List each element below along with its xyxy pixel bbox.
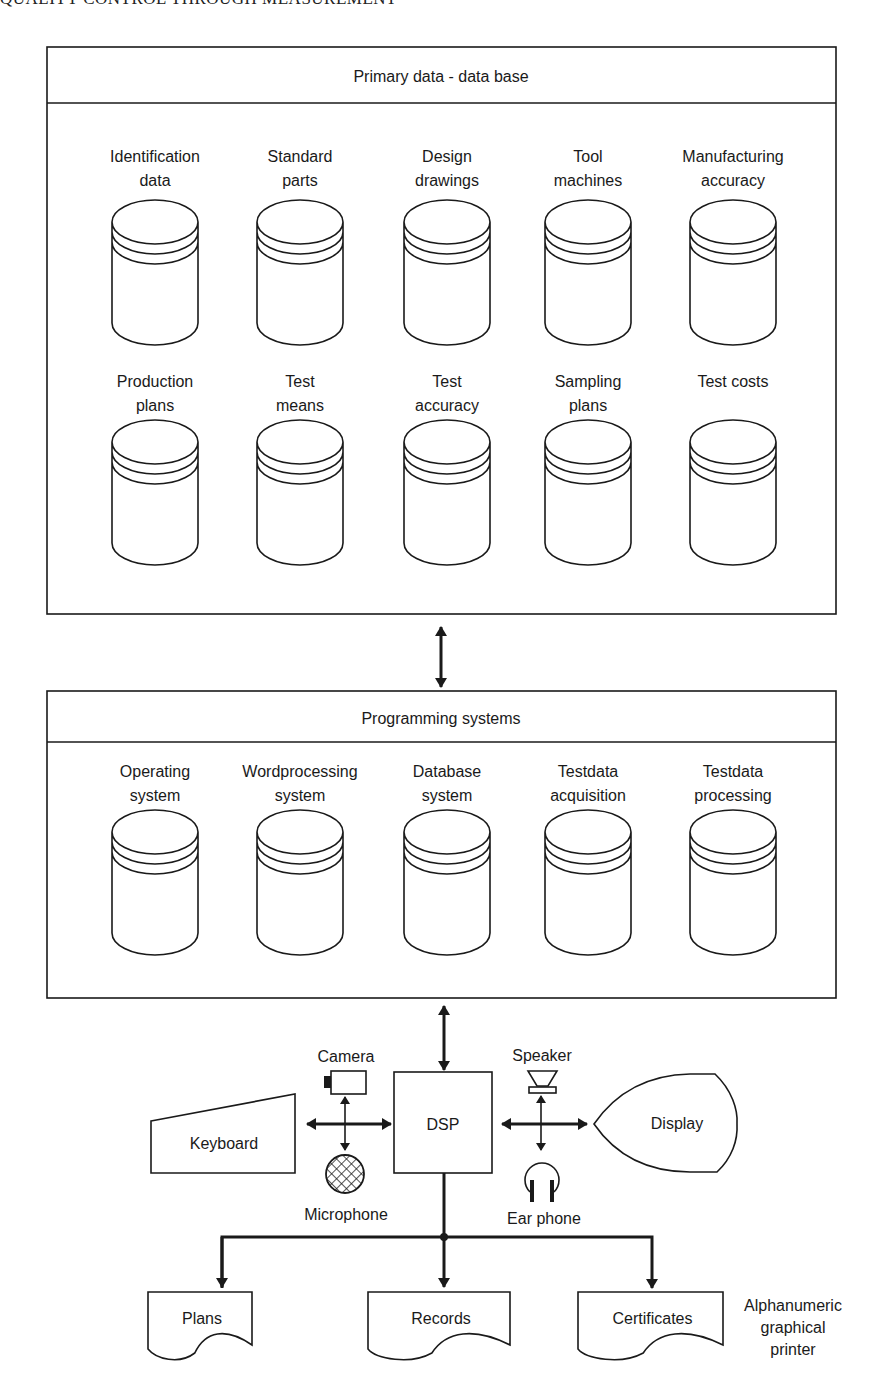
database-item: Identificationdata [110,148,200,345]
programming-systems-row: OperatingsystemWordprocessingsystemDatab… [112,763,776,955]
document-label: Plans [182,1310,222,1327]
printer-label-line-1: Alphanumeric [744,1297,842,1314]
database-item: Designdrawings [404,148,490,345]
printer-label-line-2: graphical [761,1319,826,1336]
cylinder-label: system [275,787,326,804]
cylinder-label: plans [136,397,174,414]
keyboard-label: Keyboard [190,1135,259,1152]
cylinder-label: Test [285,373,315,390]
cylinder-icon [112,810,198,955]
cylinder-label: Identification [110,148,200,165]
dsp-label: DSP [427,1116,460,1133]
keyboard-shape: Keyboard [151,1094,295,1173]
cylinder-icon [404,200,490,345]
cylinder-icon [545,420,631,565]
cylinder-icon [257,200,343,345]
database-item: Operatingsystem [112,763,198,955]
database-item: Manufacturingaccuracy [682,148,783,345]
document-shape: Certificates [578,1292,723,1360]
camera-label: Camera [318,1048,375,1065]
cylinder-icon [545,200,631,345]
microphone-label: Microphone [304,1206,388,1223]
primary-database-row-2: ProductionplansTestmeansTestaccuracySamp… [112,373,776,565]
cylinder-label: Production [117,373,194,390]
speaker-icon [528,1071,557,1093]
cylinder-label: drawings [415,172,479,189]
database-item: Productionplans [112,373,198,565]
output-bus [222,1173,652,1288]
programming-systems-title: Programming systems [361,710,520,727]
cylinder-label: Sampling [555,373,622,390]
database-item: Samplingplans [545,373,631,565]
database-item: Toolmachines [545,148,631,345]
database-item: Wordprocessingsystem [242,763,357,955]
database-item: Testdataprocessing [690,763,776,955]
cylinder-label: accuracy [415,397,479,414]
cylinder-icon [690,810,776,955]
camera-icon [324,1071,366,1094]
cylinder-icon [690,200,776,345]
cylinder-label: Testdata [558,763,619,780]
cylinder-icon [404,810,490,955]
cylinder-label: Test costs [697,373,768,390]
primary-database-row-1: IdentificationdataStandardpartsDesigndra… [110,148,784,345]
input-peripherals: Camera Microphone Keyboard [151,1048,391,1223]
document-shape: Plans [148,1292,252,1360]
printer-outputs: PlansRecordsCertificates [148,1292,723,1360]
cylinder-label: Test [432,373,462,390]
cylinder-icon [112,420,198,565]
cylinder-label: Operating [120,763,190,780]
cylinder-icon [545,810,631,955]
speaker-label: Speaker [512,1047,572,1064]
cylinder-label: Database [413,763,482,780]
database-item: Databasesystem [404,763,490,955]
database-item: Testdataacquisition [545,763,631,955]
ear-phone-label: Ear phone [507,1210,581,1227]
cylinder-icon [690,420,776,565]
cylinder-label: data [139,172,170,189]
display-shape: Display [594,1074,737,1172]
database-item: Standardparts [257,148,343,345]
display-label: Display [651,1115,703,1132]
microphone-icon [326,1155,364,1193]
cylinder-label: machines [554,172,622,189]
programming-systems-panel: Programming systems OperatingsystemWordp… [47,691,836,998]
cylinder-label: parts [282,172,318,189]
cylinder-label: means [276,397,324,414]
cylinder-label: system [130,787,181,804]
cylinder-label: processing [694,787,771,804]
printer-label: Alphanumeric graphical printer [744,1297,842,1358]
cylinder-label: Testdata [703,763,764,780]
dsp-block: DSP [394,1072,492,1173]
cylinder-icon [257,810,343,955]
cylinder-icon [404,420,490,565]
cylinder-label: Design [422,148,472,165]
database-item: Testmeans [257,373,343,565]
cylinder-label: Manufacturing [682,148,783,165]
cylinder-label: system [422,787,473,804]
database-item: Testaccuracy [404,373,490,565]
cylinder-label: Wordprocessing [242,763,357,780]
cylinder-label: accuracy [701,172,765,189]
system-diagram: Primary data - data base Identificationd… [0,0,885,1396]
cylinder-label: plans [569,397,607,414]
document-label: Records [411,1310,471,1327]
output-peripherals: Speaker Ear phone Display [502,1047,737,1227]
cylinder-icon [112,200,198,345]
document-label: Certificates [612,1310,692,1327]
document-shape: Records [368,1292,510,1360]
cylinder-icon [257,420,343,565]
cylinder-label: Tool [573,148,602,165]
database-item: Test costs [690,373,776,565]
printer-label-line-3: printer [770,1341,816,1358]
cylinder-label: Standard [268,148,333,165]
primary-database-panel: Primary data - data base Identificationd… [47,47,836,614]
primary-database-title: Primary data - data base [353,68,528,85]
cylinder-label: acquisition [550,787,626,804]
headphones-icon [525,1163,559,1202]
